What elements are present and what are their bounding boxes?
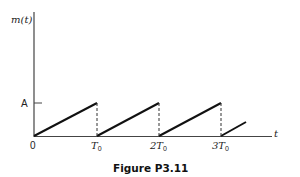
figure-caption: Figure P3.11 [113, 162, 188, 174]
sawtooth-waveform [34, 103, 246, 136]
tick-label-t0: T0 [91, 140, 102, 152]
period-drop-lines [97, 103, 221, 136]
amplitude-label: A [21, 98, 28, 109]
tick-label-0: 0 [30, 140, 36, 151]
tick-label-2t0: 2T0 [149, 140, 167, 152]
x-axis-label: t [274, 128, 279, 139]
y-axis-label: m(t) [11, 14, 32, 25]
sawtooth-figure: m(t) t A 0 T0 2T0 3T0 Figure P3.11 [0, 0, 300, 177]
tick-label-3t0: 3T0 [212, 140, 229, 152]
